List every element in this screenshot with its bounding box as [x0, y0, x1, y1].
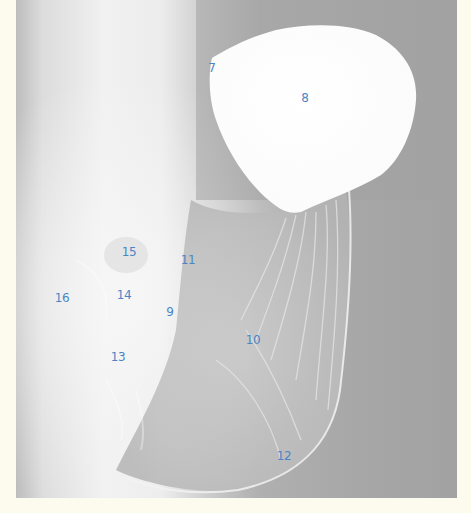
figure-frame: 7 8 15 11 16 14 9 10 13 12: [0, 0, 471, 513]
label-12: 12: [277, 450, 292, 462]
xray-graphic: [16, 0, 457, 498]
label-8: 8: [301, 92, 308, 104]
label-14: 14: [117, 289, 132, 301]
label-15: 15: [122, 246, 137, 258]
label-13: 13: [111, 351, 126, 363]
label-11: 11: [181, 254, 196, 266]
label-10: 10: [246, 334, 261, 346]
label-16: 16: [55, 292, 70, 304]
xray-image: [16, 0, 457, 498]
label-9: 9: [166, 306, 173, 318]
label-7: 7: [208, 62, 215, 74]
